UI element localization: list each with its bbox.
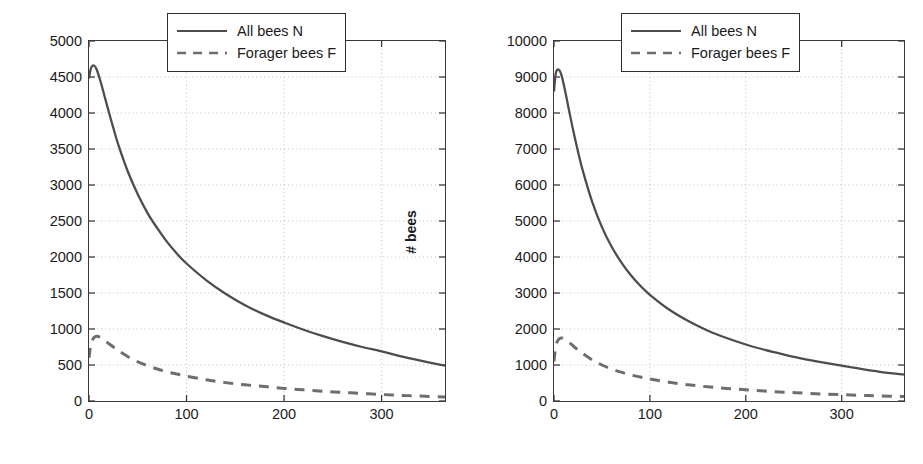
figure-container: High mortality rate 05001000150020002500… bbox=[0, 0, 923, 464]
legend-entry-forager-bees: Forager bees F bbox=[630, 42, 790, 64]
legend-left: All bees N Forager bees F bbox=[167, 13, 346, 72]
plot-svg-right bbox=[554, 41, 904, 401]
y-axis-tick-label: 7000 bbox=[515, 142, 547, 157]
y-axis-tick-label: 9000 bbox=[515, 70, 547, 85]
series-line-forager-bees bbox=[89, 336, 445, 397]
x-axis-tick-label: 200 bbox=[734, 407, 758, 422]
legend-label-all-bees: All bees N bbox=[237, 24, 303, 39]
plot-area-left: 0500100015002000250030003500400045005000… bbox=[88, 40, 446, 402]
y-axis-tick-label: 3000 bbox=[515, 286, 547, 301]
legend-entry-all-bees: All bees N bbox=[176, 20, 336, 42]
x-axis-tick-label: 300 bbox=[369, 407, 393, 422]
y-axis-tick-label: 1500 bbox=[50, 286, 82, 301]
y-axis-tick-label: 500 bbox=[58, 358, 82, 373]
y-axis-tick-label: 5000 bbox=[515, 214, 547, 229]
y-axis-tick-label: 4000 bbox=[50, 106, 82, 121]
y-axis-tick-label: 3500 bbox=[50, 142, 82, 157]
x-axis-tick-label: 200 bbox=[272, 407, 296, 422]
y-axis-label-right: # bees bbox=[403, 210, 419, 254]
legend-label-forager-bees: Forager bees F bbox=[237, 46, 336, 61]
chart-panel-right: High mortality rate 01000200030004000500… bbox=[461, 0, 922, 464]
y-axis-tick-label: 2000 bbox=[50, 250, 82, 265]
legend-entry-forager-bees: Forager bees F bbox=[176, 42, 336, 64]
legend-label-all-bees: All bees N bbox=[691, 24, 757, 39]
y-axis-tick-label: 1000 bbox=[515, 358, 547, 373]
legend-solid-line-icon bbox=[630, 25, 682, 37]
y-axis-tick-label: 1000 bbox=[50, 322, 82, 337]
plot-area-right: 0100020003000400050006000700080009000100… bbox=[553, 40, 905, 402]
y-axis-tick-label: 4500 bbox=[50, 70, 82, 85]
legend-right: All bees N Forager bees F bbox=[621, 13, 800, 72]
y-axis-tick-label: 2500 bbox=[50, 214, 82, 229]
x-axis-tick-label: 100 bbox=[638, 407, 662, 422]
x-axis-tick-label: 100 bbox=[174, 407, 198, 422]
legend-dashed-line-icon bbox=[176, 47, 228, 59]
x-axis-tick-label: 0 bbox=[85, 407, 93, 422]
series-line-all-bees bbox=[89, 65, 445, 365]
y-axis-tick-label: 6000 bbox=[515, 178, 547, 193]
y-axis-tick-label: 8000 bbox=[515, 106, 547, 121]
x-axis-tick-label: 0 bbox=[550, 407, 558, 422]
legend-label-forager-bees: Forager bees F bbox=[691, 46, 790, 61]
y-axis-tick-label: 10000 bbox=[507, 34, 547, 49]
plot-svg-left bbox=[89, 41, 445, 401]
y-axis-tick-label: 2000 bbox=[515, 322, 547, 337]
legend-dashed-line-icon bbox=[630, 47, 682, 59]
legend-solid-line-icon bbox=[176, 25, 228, 37]
y-axis-tick-label: 0 bbox=[74, 394, 82, 409]
y-axis-tick-label: 5000 bbox=[50, 34, 82, 49]
x-axis-tick-label: 300 bbox=[830, 407, 854, 422]
legend-entry-all-bees: All bees N bbox=[630, 20, 790, 42]
chart-panel-left: High mortality rate 05001000150020002500… bbox=[0, 0, 461, 464]
y-axis-tick-label: 4000 bbox=[515, 250, 547, 265]
y-axis-tick-label: 0 bbox=[539, 394, 547, 409]
y-axis-tick-label: 3000 bbox=[50, 178, 82, 193]
